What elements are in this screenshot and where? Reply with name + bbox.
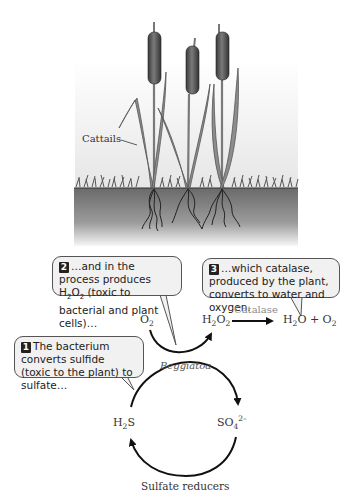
sulfate-label: SO42– [217,414,247,431]
callout-step-1: 1The bacterium converts sulfide (toxic t… [14,336,144,378]
callout-step-3: 3…which catalase, produced by the plant,… [202,258,340,298]
reaction-arrows [0,0,362,500]
h2s-label: H2S [113,416,135,431]
o2-label: O2 [140,313,154,328]
sulfate-reducers-label: Sulfate reducers [141,480,229,492]
beggiatoa-label: Beggiatoa [160,360,211,371]
callout-step-2: 2…and in the process produces H2O2 (toxi… [52,256,182,296]
reduction-arc [131,437,236,476]
products-label: H2O + O2 [283,313,336,328]
beggiatoa-arrow [150,330,211,352]
h2o2-label: H2O2 [202,313,230,328]
step-3-badge: 3 [209,264,219,275]
catalase-label: Catalase [234,304,278,315]
step-2-badge: 2 [59,262,69,273]
step-1-badge: 1 [21,342,31,353]
